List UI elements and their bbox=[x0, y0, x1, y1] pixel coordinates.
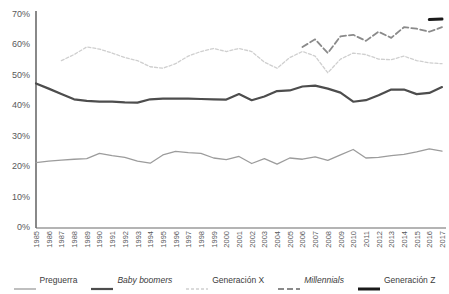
x-axis-tick-label: 1999 bbox=[210, 231, 219, 248]
legend-label: Preguerra bbox=[40, 275, 78, 285]
x-axis-tick-label: 1991 bbox=[108, 231, 117, 248]
y-axis-tick-label: 60% bbox=[2, 39, 30, 49]
x-axis-tick-label: 2009 bbox=[337, 231, 346, 248]
x-axis-tick-label: 2004 bbox=[273, 231, 282, 248]
legend-line-swatch bbox=[358, 278, 380, 282]
legend-item-preguerra[interactable]: Preguerra bbox=[14, 275, 78, 285]
x-axis-tick-label: 1986 bbox=[45, 231, 54, 248]
x-axis-tick-label: 2001 bbox=[235, 231, 244, 248]
x-axis-tick-label: 2016 bbox=[425, 231, 434, 248]
y-axis-tick-label: 70% bbox=[2, 9, 30, 19]
series-line-generación-x bbox=[61, 47, 442, 73]
x-axis-tick-label: 1989 bbox=[83, 231, 92, 248]
y-axis-tick-label: 0% bbox=[2, 222, 30, 232]
line-chart-plot bbox=[0, 0, 449, 294]
x-axis-tick-label: 2002 bbox=[248, 231, 257, 248]
x-axis-tick-label: 1988 bbox=[70, 231, 79, 248]
x-axis-tick-label: 1993 bbox=[134, 231, 143, 248]
chart-container: 0%10%20%30%40%50%60%70% 1985198619871988… bbox=[0, 0, 449, 294]
y-axis-tick-label: 20% bbox=[2, 161, 30, 171]
legend-label: Generación Z bbox=[384, 275, 436, 285]
x-axis-tick-label: 2006 bbox=[298, 231, 307, 248]
x-axis-tick-label: 2003 bbox=[260, 231, 269, 248]
legend-label: Baby boomers bbox=[117, 275, 172, 285]
x-axis-tick-label: 1997 bbox=[184, 231, 193, 248]
legend-line-swatch bbox=[14, 278, 36, 282]
series-line-preguerra bbox=[36, 149, 442, 164]
y-axis-tick-label: 50% bbox=[2, 70, 30, 80]
x-axis-tick-label: 1985 bbox=[32, 231, 41, 248]
x-axis-tick-label: 2008 bbox=[324, 231, 333, 248]
legend-label: Generación X bbox=[212, 275, 264, 285]
legend-line-swatch bbox=[278, 278, 300, 282]
x-axis-tick-label: 2012 bbox=[375, 231, 384, 248]
x-axis-tick-label: 2005 bbox=[286, 231, 295, 248]
x-axis-tick-label: 2017 bbox=[438, 231, 447, 248]
series-line-millennials bbox=[302, 27, 442, 53]
legend-item-generación-z[interactable]: Generación Z bbox=[358, 275, 436, 285]
y-axis-tick-label: 10% bbox=[2, 192, 30, 202]
legend-item-generación-x[interactable]: Generación X bbox=[186, 275, 264, 285]
x-axis-tick-label: 1996 bbox=[172, 231, 181, 248]
x-axis-tick-label: 2015 bbox=[413, 231, 422, 248]
x-axis-tick-label: 2010 bbox=[349, 231, 358, 248]
x-axis-tick-label: 2011 bbox=[362, 231, 371, 247]
x-axis-tick-label: 1995 bbox=[159, 231, 168, 248]
legend-label: Millennials bbox=[304, 275, 344, 285]
x-axis-tick-label: 1992 bbox=[121, 231, 130, 248]
legend-line-swatch bbox=[91, 278, 113, 282]
legend-item-millennials[interactable]: Millennials bbox=[278, 275, 344, 285]
x-axis-tick-label: 1998 bbox=[197, 231, 206, 248]
x-axis-tick-label: 2007 bbox=[311, 231, 320, 248]
x-axis-tick-label: 2000 bbox=[222, 231, 231, 248]
x-axis-tick-label: 1994 bbox=[146, 231, 155, 248]
x-axis-tick-label: 1990 bbox=[95, 231, 104, 248]
y-axis-tick-label: 40% bbox=[2, 100, 30, 110]
x-axis-tick-label: 2014 bbox=[400, 231, 409, 248]
series-line-generación-z bbox=[429, 19, 442, 20]
chart-legend: PreguerraBaby boomersGeneración XMillenn… bbox=[0, 270, 449, 290]
y-axis-tick-label: 30% bbox=[2, 131, 30, 141]
x-axis-tick-label: 2013 bbox=[387, 231, 396, 248]
legend-item-baby-boomers[interactable]: Baby boomers bbox=[91, 275, 172, 285]
legend-line-swatch bbox=[186, 278, 208, 282]
x-axis-tick-label: 1987 bbox=[57, 231, 66, 248]
series-line-baby-boomers bbox=[36, 83, 442, 102]
